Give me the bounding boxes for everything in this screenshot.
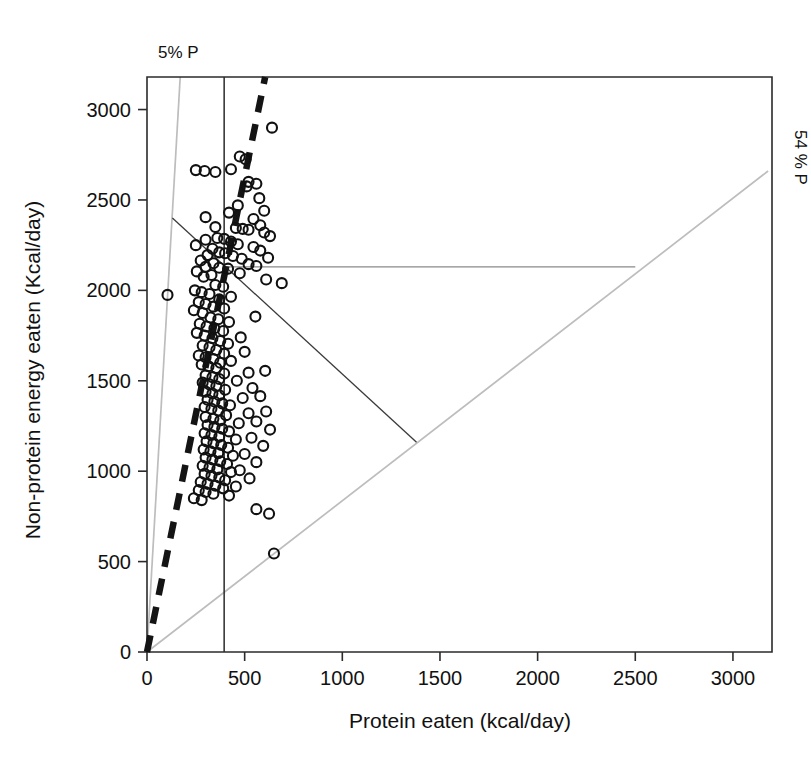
data-point — [251, 416, 261, 426]
y-tick-label: 1000 — [87, 460, 132, 482]
data-point — [265, 425, 275, 435]
data-point — [233, 200, 243, 210]
data-point — [236, 332, 246, 342]
x-tick-label: 1000 — [320, 667, 365, 689]
y-tick-label: 3000 — [87, 99, 132, 121]
right-rail-label: 54 % P — [791, 130, 810, 185]
data-point — [254, 193, 264, 203]
data-point — [259, 206, 269, 216]
y-tick-label: 1500 — [87, 370, 132, 392]
data-point — [261, 407, 271, 417]
data-point — [226, 292, 236, 302]
data-point — [260, 366, 270, 376]
data-point — [198, 341, 208, 351]
data-point — [267, 123, 277, 133]
data-point — [263, 253, 273, 263]
nutritional-rails-group — [147, 77, 768, 652]
data-point — [247, 383, 257, 393]
scatter-plot-figure: Protein eaten (kcal/day) Non-protein ene… — [0, 0, 811, 777]
axis-labels-group: Protein eaten (kcal/day) Non-protein ene… — [21, 43, 810, 732]
axis-frame-group — [147, 77, 772, 652]
data-point — [231, 482, 241, 492]
left-rail-label: 5% P — [158, 43, 199, 62]
data-point — [238, 393, 248, 403]
data-point — [191, 240, 201, 250]
y-tick-label: 2000 — [87, 279, 132, 301]
data-point — [210, 222, 220, 232]
data-point — [201, 235, 211, 245]
y-axis-title: Non-protein energy eaten (Kcal/day) — [21, 201, 44, 540]
data-point — [240, 347, 250, 357]
y-tick-label: 2500 — [87, 189, 132, 211]
data-point — [250, 312, 260, 322]
data-point — [226, 164, 236, 174]
data-point — [224, 491, 234, 501]
x-tick-label: 500 — [228, 667, 261, 689]
data-point — [258, 441, 268, 451]
data-point — [244, 408, 254, 418]
x-tick-label: 2000 — [515, 667, 560, 689]
data-point — [231, 435, 241, 445]
x-tick-label: 0 — [141, 667, 152, 689]
plot-canvas: Protein eaten (kcal/day) Non-protein ene… — [0, 0, 811, 777]
y-tick-label: 500 — [98, 551, 131, 573]
data-point — [264, 509, 274, 519]
data-point — [255, 391, 265, 401]
data-point — [192, 266, 202, 276]
plot-frame — [147, 77, 772, 652]
data-point — [234, 418, 244, 428]
rail-54pct-P — [147, 171, 768, 652]
x-tick-label: 2500 — [613, 667, 658, 689]
data-point — [210, 167, 220, 177]
data-point — [261, 275, 271, 285]
data-point — [245, 473, 255, 483]
x-tick-label: 3000 — [711, 667, 756, 689]
data-point — [277, 278, 287, 288]
data-point — [201, 212, 211, 222]
data-point — [232, 376, 242, 386]
data-point — [244, 368, 254, 378]
data-point — [224, 208, 234, 218]
data-point — [235, 268, 245, 278]
data-point — [251, 457, 261, 467]
data-point — [246, 433, 256, 443]
x-tick-label: 1500 — [418, 667, 463, 689]
data-point — [190, 285, 200, 295]
data-point — [226, 356, 236, 366]
x-axis-title: Protein eaten (kcal/day) — [349, 709, 571, 732]
data-point — [240, 449, 250, 459]
y-tick-label: 0 — [120, 641, 131, 663]
data-point — [251, 504, 261, 514]
